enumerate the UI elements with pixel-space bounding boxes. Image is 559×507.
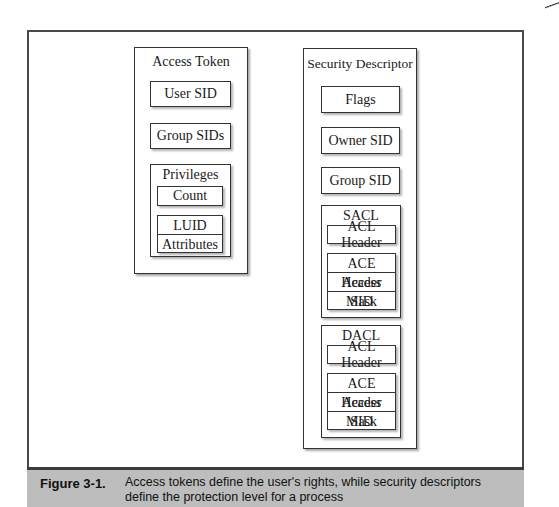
group-sid-field: Group SID bbox=[321, 167, 400, 194]
page-corner-mark bbox=[545, 0, 559, 10]
user-sid-label: User SID bbox=[164, 86, 217, 102]
sacl-sid-field: SID bbox=[328, 292, 395, 311]
group-sid-label: Group SID bbox=[330, 173, 392, 189]
dacl-acl-header-field: ACL Header bbox=[327, 345, 396, 364]
group-sids-field: Group SIDs bbox=[150, 123, 231, 149]
dacl-box: DACL ACL Header ACE Header Access Mask S… bbox=[321, 325, 401, 438]
user-sid-field: User SID bbox=[150, 81, 231, 107]
sacl-acl-header-label: ACL Header bbox=[328, 219, 395, 251]
security-descriptor-title: Security Descriptor bbox=[304, 56, 416, 72]
access-token-title: Access Token bbox=[135, 54, 247, 70]
privileges-title: Privileges bbox=[151, 167, 230, 183]
dacl-ace-header-field: ACE Header bbox=[328, 374, 395, 393]
privileges-count-field: Count bbox=[157, 186, 223, 206]
caption-text: Access tokens define the user's rights, … bbox=[125, 475, 510, 505]
dacl-ace-stack: ACE Header Access Mask SID bbox=[327, 373, 396, 430]
flags-field: Flags bbox=[321, 86, 400, 113]
owner-sid-label: Owner SID bbox=[328, 133, 392, 149]
owner-sid-field: Owner SID bbox=[321, 127, 400, 154]
sacl-access-mask-field: Access Mask bbox=[328, 273, 395, 292]
dacl-sid-field: SID bbox=[328, 412, 395, 431]
privileges-count-label: Count bbox=[173, 188, 207, 204]
figure-number: Figure 3-1. bbox=[40, 476, 106, 491]
sacl-acl-header-field: ACL Header bbox=[327, 225, 396, 244]
security-descriptor-box: Security Descriptor Flags Owner SID Grou… bbox=[303, 48, 417, 449]
sacl-box: SACL ACL Header ACE Header Access Mask S… bbox=[321, 205, 401, 318]
flags-label: Flags bbox=[345, 92, 375, 108]
group-sids-label: Group SIDs bbox=[157, 128, 224, 144]
dacl-acl-header-label: ACL Header bbox=[328, 339, 395, 371]
attributes-field: Attributes bbox=[158, 235, 222, 254]
dacl-access-mask-field: Access Mask bbox=[328, 393, 395, 412]
sacl-ace-header-field: ACE Header bbox=[328, 254, 395, 273]
privilege-entry-stack: LUID Attributes bbox=[157, 215, 223, 253]
figure-caption: Figure 3-1. Access tokens define the use… bbox=[27, 467, 524, 507]
luid-field: LUID bbox=[158, 216, 222, 235]
privileges-box: Privileges Count LUID Attributes bbox=[150, 164, 231, 257]
access-token-box: Access Token User SID Group SIDs Privile… bbox=[134, 47, 248, 274]
sacl-ace-stack: ACE Header Access Mask SID bbox=[327, 253, 396, 310]
figure-frame: Access Token User SID Group SIDs Privile… bbox=[27, 30, 524, 506]
